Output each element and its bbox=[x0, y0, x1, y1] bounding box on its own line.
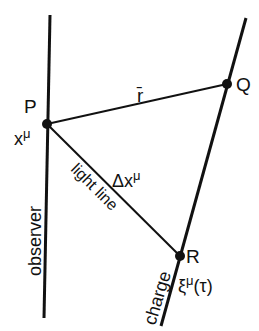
label-r-coord: ξμ(τ) bbox=[178, 273, 213, 296]
label-p-coord: xμ bbox=[14, 126, 31, 149]
point-r bbox=[175, 251, 185, 261]
label-r-bar: r̄ bbox=[136, 85, 144, 106]
point-q bbox=[222, 79, 232, 89]
label-delta-x: Δxμ bbox=[112, 168, 141, 191]
label-q: Q bbox=[236, 74, 251, 95]
label-r: R bbox=[186, 246, 200, 267]
spacetime-diagram: P xμ Q R ξμ(τ) r̄ Δxμ light line observe… bbox=[0, 0, 259, 331]
point-p bbox=[42, 119, 52, 129]
label-observer: observer bbox=[25, 206, 45, 276]
label-p: P bbox=[24, 96, 37, 117]
